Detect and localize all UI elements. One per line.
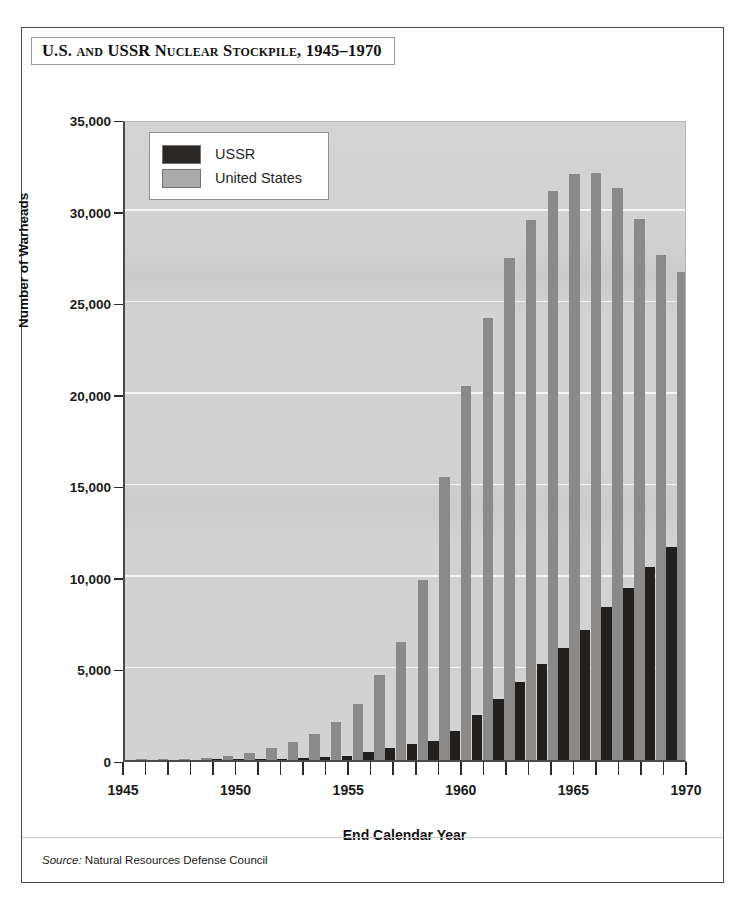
x-axis-tick-mark (370, 762, 372, 775)
source-label: Source: (42, 854, 82, 866)
bar-united-states-1969 (656, 255, 667, 760)
x-axis-tick-label: 1945 (107, 782, 138, 798)
source-text: Natural Resources Defense Council (82, 854, 268, 866)
bar-united-states-1960 (461, 386, 472, 760)
x-axis-tick-label: 1950 (220, 782, 251, 798)
x-axis-tick-mark (663, 762, 665, 775)
x-axis-tick-mark (618, 762, 620, 775)
bar-united-states-1961 (483, 318, 494, 760)
chart-legend: USSR United States (149, 132, 329, 200)
y-axis-tick-label: 15,000 (39, 480, 111, 495)
figure-page: U.S. and USSR Nuclear Stockpile, 1945–19… (0, 0, 739, 905)
x-axis-tick-mark (392, 762, 394, 775)
bar-united-states-1946 (158, 759, 169, 760)
bar-united-states-1950 (244, 753, 255, 760)
x-axis-tick-mark (280, 762, 282, 775)
bar-united-states-1967 (612, 188, 623, 760)
x-axis-tick-mark (325, 762, 327, 775)
bar-united-states-1963 (526, 220, 537, 760)
bar-ussr-1957 (385, 748, 396, 760)
y-axis-tick-mark (114, 395, 123, 397)
y-axis-title: Number of Warheads (16, 193, 31, 328)
page-title: U.S. and USSR Nuclear Stockpile, 1945–19… (42, 41, 382, 61)
x-axis-tick-mark (145, 762, 147, 775)
bar-ussr-1969 (645, 567, 656, 760)
bar-ussr-1958 (407, 744, 418, 760)
source-divider (22, 837, 723, 838)
legend-item-united-states: United States (162, 166, 302, 190)
bar-ussr-1965 (558, 648, 569, 760)
x-axis-tick-mark (190, 762, 192, 775)
y-axis-tick-label: 5,000 (39, 663, 111, 678)
y-axis-tick-label: 10,000 (39, 571, 111, 586)
bar-united-states-1964 (548, 191, 559, 760)
x-axis-tick-mark (483, 762, 485, 775)
legend-label-united-states: United States (215, 170, 302, 186)
x-axis-tick-mark (640, 762, 642, 775)
y-axis-tick-label: 30,000 (39, 205, 111, 220)
bar-united-states-1966 (591, 173, 602, 760)
bar-ussr-1961 (472, 715, 483, 760)
bar-ussr-1951 (255, 759, 266, 760)
x-axis-tick-label: 1960 (445, 782, 476, 798)
bar-united-states-1957 (396, 642, 407, 760)
x-axis-tick-mark (595, 762, 597, 775)
bar-united-states-1968 (634, 219, 645, 760)
y-axis-tick-label: 25,000 (39, 297, 111, 312)
x-axis-tick-label: 1970 (670, 782, 701, 798)
bar-ussr-1964 (537, 664, 548, 760)
bar-ussr-1952 (277, 759, 288, 760)
bar-ussr-1962 (493, 699, 504, 760)
source-note: Source: Natural Resources Defense Counci… (42, 854, 268, 866)
bar-ussr-1956 (363, 752, 374, 760)
bar-united-states-1962 (504, 258, 515, 760)
bar-ussr-1955 (342, 756, 353, 760)
x-axis-tick-mark (505, 762, 507, 775)
y-axis-tick-label: 0 (39, 755, 111, 770)
bar-united-states-1951 (266, 748, 277, 760)
y-axis-tick-label: 20,000 (39, 388, 111, 403)
x-axis-tick-mark (212, 762, 214, 775)
plot-area: USSR United States (123, 121, 686, 762)
bar-ussr-1960 (450, 731, 461, 760)
x-axis-tick-mark (302, 762, 304, 775)
x-axis-tick-mark (573, 762, 575, 775)
bar-united-states-1949 (223, 756, 234, 760)
x-axis-tick-mark (415, 762, 417, 775)
x-axis-tick-label: 1965 (558, 782, 589, 798)
bar-ussr-1968 (623, 588, 634, 760)
y-axis-tick-mark (114, 121, 123, 123)
bar-united-states-1953 (309, 734, 320, 760)
legend-swatch-ussr (162, 145, 201, 164)
figure-frame: U.S. and USSR Nuclear Stockpile, 1945–19… (21, 27, 724, 883)
bar-united-states-1959 (439, 477, 450, 760)
bar-ussr-1963 (515, 682, 526, 760)
x-axis-tick-mark (460, 762, 462, 775)
bar-ussr-1954 (320, 757, 331, 760)
x-axis-tick-mark (122, 762, 124, 775)
bar-united-states-1954 (331, 722, 342, 760)
bar-united-states-1970 (677, 272, 686, 760)
y-axis-tick-mark (114, 578, 123, 580)
legend-swatch-united-states (162, 169, 201, 188)
bar-united-states-1958 (418, 580, 429, 760)
bar-united-states-1952 (288, 742, 299, 760)
x-axis-tick-mark (685, 762, 687, 775)
x-axis-tick-mark (235, 762, 237, 775)
x-axis-title: End Calendar Year (123, 827, 686, 843)
bar-ussr-1970 (666, 547, 677, 760)
x-axis-tick-mark (167, 762, 169, 775)
y-axis-tick-mark (114, 212, 123, 214)
legend-label-ussr: USSR (215, 146, 255, 162)
bar-ussr-1967 (601, 607, 612, 760)
bar-ussr-1953 (298, 758, 309, 760)
x-axis-tick-mark (347, 762, 349, 775)
bar-united-states-1948 (201, 758, 212, 760)
y-axis-tick-mark (114, 670, 123, 672)
x-axis-tick-label: 1955 (333, 782, 364, 798)
bar-ussr-1950 (233, 759, 244, 760)
x-axis-tick-mark (438, 762, 440, 775)
x-axis-tick-mark (550, 762, 552, 775)
bar-ussr-1949 (212, 759, 223, 760)
bar-ussr-1959 (428, 741, 439, 760)
